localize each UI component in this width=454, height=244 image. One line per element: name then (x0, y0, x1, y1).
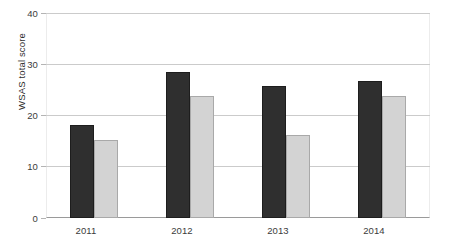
bar-2013-series-2 (286, 135, 310, 218)
x-axis-tick-label-2013: 2013 (238, 225, 318, 236)
y-axis-tick-mark-30 (41, 64, 46, 65)
x-axis-tick-label-2014: 2014 (334, 225, 414, 236)
x-axis-tick-label-2011: 2011 (46, 225, 126, 236)
bar-2013-series-1 (262, 86, 286, 218)
y-axis-tick-mark-20 (41, 115, 46, 116)
bar-chart: 40 30 20 10 0 WSAS total score 2011 2012… (0, 0, 454, 244)
y-axis-tick-mark-40 (41, 13, 46, 14)
y-axis-tick-mark-0 (41, 218, 46, 219)
y-axis-tick-mark-10 (41, 166, 46, 167)
bar-2011-series-1 (70, 125, 94, 218)
y-axis-title: WSAS total score (16, 2, 27, 142)
x-axis-tick-label-2012: 2012 (142, 225, 222, 236)
bar-2014-series-2 (382, 96, 406, 218)
y-axis-tick-label-10: 10 (0, 161, 38, 172)
y-axis-tick-label-0: 0 (0, 213, 38, 224)
gridline-40 (46, 13, 430, 14)
bar-2012-series-1 (166, 72, 190, 218)
bar-2011-series-2 (94, 140, 118, 218)
bar-2012-series-2 (190, 96, 214, 218)
gridline-30 (46, 64, 430, 65)
bar-2014-series-1 (358, 81, 382, 218)
